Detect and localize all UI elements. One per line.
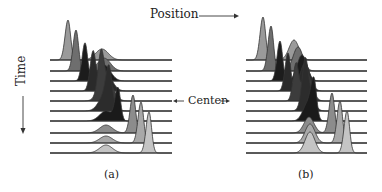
time-axis-label: Time [14, 56, 28, 86]
ridge-curve [50, 20, 172, 60]
position-arrow-icon [199, 14, 239, 19]
ridge-curve [246, 17, 367, 60]
center-label: Center [188, 94, 226, 107]
position-axis-label: Position [150, 7, 198, 21]
panel-a-ridges [50, 20, 172, 153]
panel-a-caption: (a) [104, 168, 119, 181]
center-left-arrow-icon [173, 99, 184, 103]
time-arrow-icon [21, 96, 26, 134]
panel-b-ridges [246, 17, 367, 153]
panel-b-caption: (b) [298, 168, 314, 181]
